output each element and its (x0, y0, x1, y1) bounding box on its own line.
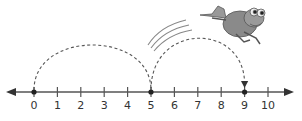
point-0 (31, 89, 36, 94)
left-arrow-icon (6, 88, 16, 96)
point-5 (148, 89, 153, 94)
tick-labels: 0 1 2 3 4 5 6 7 8 9 10 (31, 99, 276, 112)
label-0: 0 (31, 99, 38, 112)
right-arrow-icon (284, 88, 294, 96)
frog-icon (200, 6, 265, 44)
label-8: 8 (218, 99, 225, 112)
label-2: 2 (77, 99, 84, 112)
number-line-diagram: 0 1 2 3 4 5 6 7 8 9 10 (0, 0, 302, 121)
label-1: 1 (54, 99, 61, 112)
label-7: 7 (194, 99, 201, 112)
label-10: 10 (261, 99, 275, 112)
label-4: 4 (124, 99, 131, 112)
jump-arc-5-to-9 (151, 38, 245, 90)
motion-lines-icon (148, 20, 192, 51)
point-9 (242, 89, 247, 94)
number-line-svg: 0 1 2 3 4 5 6 7 8 9 10 (0, 0, 302, 121)
label-3: 3 (101, 99, 108, 112)
label-9: 9 (241, 99, 248, 112)
label-5: 5 (148, 99, 155, 112)
jump-arc-0-to-5 (34, 45, 151, 90)
label-6: 6 (171, 99, 178, 112)
arrowhead-icon (241, 81, 248, 88)
